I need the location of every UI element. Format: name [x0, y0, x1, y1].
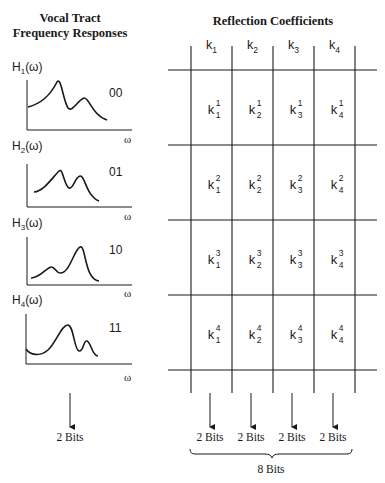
total-bits-label: 8 Bits	[241, 463, 301, 475]
column-bits-label-3: 2 Bits	[272, 431, 312, 443]
column-header-k2: k2	[232, 38, 273, 52]
coefficient-cell: k41	[191, 328, 231, 341]
response-label-4: H4(ω)	[12, 293, 43, 312]
response-code-1: 00	[109, 86, 122, 100]
column-bits-label-4: 2 Bits	[313, 431, 353, 443]
coefficient-cell: k34	[314, 253, 354, 266]
response-label-1: H1(ω)	[12, 60, 43, 79]
coefficient-cell: k32	[232, 253, 272, 266]
column-bits-label-1: 2 Bits	[190, 431, 230, 443]
column-arrows	[210, 393, 333, 427]
response-label-2: H2(ω)	[12, 139, 43, 158]
coefficient-cell: k11	[191, 103, 231, 116]
omega-axis-label-4: ω	[124, 371, 131, 383]
coefficient-cell: k22	[232, 178, 272, 191]
right-panel-title: Reflection Coefficients	[173, 14, 373, 29]
coefficient-cell: k33	[273, 253, 313, 266]
coefficient-cell: k13	[273, 103, 313, 116]
coefficient-cell: k43	[273, 328, 313, 341]
omega-axis-label-2: ω	[124, 210, 131, 222]
column-bits-label-2: 2 Bits	[231, 431, 271, 443]
coefficient-cell: k31	[191, 253, 231, 266]
diagram-graphics	[0, 0, 385, 483]
response-code-3: 10	[109, 243, 122, 257]
coefficient-cell: k12	[232, 103, 272, 116]
coefficient-cell: k44	[314, 328, 354, 341]
left-title-line2: Frequency Responses	[0, 26, 140, 41]
response-code-2: 01	[109, 165, 122, 179]
coefficient-cell: k21	[191, 178, 231, 191]
column-header-k4: k4	[314, 38, 355, 52]
response-label-3: H3(ω)	[12, 216, 43, 235]
response-code-4: 11	[109, 321, 121, 335]
column-header-k1: k1	[191, 38, 232, 52]
coefficient-cell: k14	[314, 103, 354, 116]
omega-axis-label-3: ω	[124, 287, 131, 299]
coefficient-cell: k24	[314, 178, 354, 191]
coefficient-cell: k42	[232, 328, 272, 341]
coefficient-cell: k23	[273, 178, 313, 191]
total-bits-brace	[190, 449, 352, 458]
left-bits-label: 2 Bits	[40, 431, 100, 443]
omega-axis-label-1: ω	[124, 133, 131, 145]
left-panel-title: Vocal Tract Frequency Responses	[0, 11, 140, 41]
column-header-k3: k3	[273, 38, 314, 52]
left-title-line1: Vocal Tract	[0, 11, 140, 26]
